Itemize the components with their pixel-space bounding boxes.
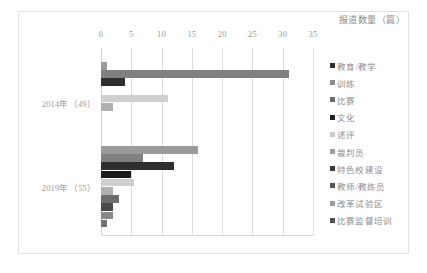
category-label-2014: 2014年（49） bbox=[24, 97, 96, 109]
legend-swatch-icon bbox=[330, 97, 335, 102]
chart-legend: 教育/教学训练比赛文化述评裁判员特色校建设教师/教练员改革试验区比赛监督培训 bbox=[330, 57, 410, 229]
legend-item[interactable]: 训练 bbox=[330, 74, 410, 91]
legend-swatch-icon bbox=[330, 218, 335, 223]
bar bbox=[101, 220, 107, 228]
bar bbox=[101, 179, 134, 187]
legend-label: 比赛 bbox=[337, 94, 355, 106]
legend-item[interactable]: 教师/教练员 bbox=[330, 177, 410, 194]
bar bbox=[101, 95, 168, 103]
x-tick-label: 10 bbox=[157, 29, 166, 39]
legend-item[interactable]: 裁判员 bbox=[330, 143, 410, 160]
legend-swatch-icon bbox=[330, 149, 335, 154]
bar bbox=[101, 70, 289, 78]
bar-series-group bbox=[101, 48, 313, 236]
x-tick-label: 20 bbox=[218, 29, 227, 39]
x-tick-label: 30 bbox=[278, 29, 287, 39]
x-axis-tick-labels: 05101520253035 bbox=[101, 29, 313, 43]
legend-label: 比赛监督培训 bbox=[337, 214, 392, 226]
legend-item[interactable]: 比赛 bbox=[330, 91, 410, 108]
legend-item[interactable]: 改革试验区 bbox=[330, 195, 410, 212]
legend-swatch-icon bbox=[330, 63, 335, 68]
legend-swatch-icon bbox=[330, 201, 335, 206]
legend-label: 训练 bbox=[337, 77, 355, 89]
chart-title: 报道数量（篇） bbox=[339, 13, 406, 26]
bar bbox=[101, 187, 113, 195]
bar bbox=[101, 62, 107, 70]
legend-item[interactable]: 特色校建设 bbox=[330, 160, 410, 177]
x-tick-label: 25 bbox=[248, 29, 257, 39]
category-label-2019: 2019年（55） bbox=[24, 181, 96, 193]
gridline bbox=[313, 48, 314, 236]
legend-item[interactable]: 比赛监督培训 bbox=[330, 212, 410, 229]
legend-label: 改革试验区 bbox=[337, 197, 383, 209]
legend-item[interactable]: 教育/教学 bbox=[330, 57, 410, 74]
bar bbox=[101, 212, 113, 220]
bar bbox=[101, 195, 119, 203]
chart-container: 报道数量（篇） 05101520253035 2014年（49） 2019年（5… bbox=[0, 0, 427, 273]
legend-item[interactable]: 述评 bbox=[330, 126, 410, 143]
bar bbox=[101, 146, 198, 154]
x-tick-label: 15 bbox=[187, 29, 196, 39]
bar bbox=[101, 154, 143, 162]
legend-label: 文化 bbox=[337, 111, 355, 123]
legend-swatch-icon bbox=[330, 115, 335, 120]
x-tick-label: 5 bbox=[129, 29, 133, 39]
legend-label: 特色校建设 bbox=[337, 163, 383, 175]
legend-swatch-icon bbox=[330, 80, 335, 85]
bar bbox=[101, 171, 131, 179]
legend-swatch-icon bbox=[330, 132, 335, 137]
bar bbox=[101, 103, 113, 111]
bar bbox=[101, 162, 174, 170]
legend-label: 述评 bbox=[337, 128, 355, 140]
bar bbox=[101, 78, 125, 86]
legend-label: 裁判员 bbox=[337, 146, 365, 158]
x-tick-label: 0 bbox=[99, 29, 103, 39]
x-tick-label: 35 bbox=[309, 29, 318, 39]
legend-swatch-icon bbox=[330, 183, 335, 188]
legend-label: 教师/教练员 bbox=[337, 180, 386, 192]
bar bbox=[101, 203, 113, 211]
legend-swatch-icon bbox=[330, 166, 335, 171]
legend-item[interactable]: 文化 bbox=[330, 109, 410, 126]
legend-label: 教育/教学 bbox=[337, 60, 376, 72]
plot-area bbox=[101, 48, 313, 236]
